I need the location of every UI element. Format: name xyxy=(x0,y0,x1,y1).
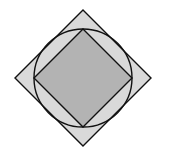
geometry-figure xyxy=(0,0,170,151)
